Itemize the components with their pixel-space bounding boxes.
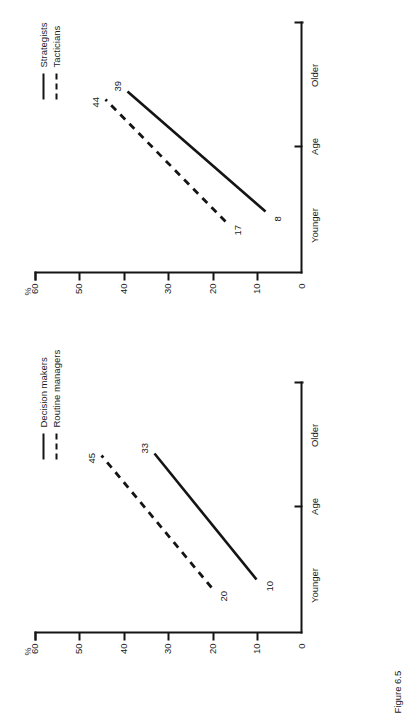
rotated-page-canvas: % 60 50 40 30 20 10 0 Younge [0, 0, 417, 719]
legend-label-tacticians: Tacticians [51, 25, 61, 67]
plot-area-decision-makers: % 60 50 40 30 20 10 0 Younge [28, 373, 358, 685]
line-decision-makers [154, 453, 256, 579]
chart-strategists: % 60 50 40 30 20 10 0 Younger Age [0, 0, 417, 359]
legend-label-strategists: Strategists [38, 22, 48, 67]
dashed-line-icon [51, 433, 61, 459]
point-label-tacticians-younger: 17 [232, 224, 242, 235]
figure-caption: Figure 6.5 [392, 670, 402, 713]
dashed-line-icon [51, 73, 61, 99]
solid-line-icon [38, 433, 48, 459]
legend-decision-makers: Decision makers Routine managers [36, 349, 62, 459]
legend-label-routine-managers: Routine managers [51, 349, 61, 427]
legend-item-routine-managers: Routine managers [49, 349, 62, 459]
legend-strategists: Strategists Tacticians [36, 22, 62, 99]
solid-line-icon [38, 73, 48, 99]
point-label-routine-managers-older: 45 [86, 452, 96, 463]
point-label-strategists-younger: 8 [272, 216, 282, 221]
series-lines-decision-makers [28, 373, 358, 685]
line-routine-managers [101, 455, 211, 587]
legend-label-decision-makers: Decision makers [38, 357, 48, 427]
point-label-decision-makers-older: 33 [139, 442, 149, 453]
series-lines-strategists [28, 13, 358, 325]
point-label-strategists-older: 39 [112, 80, 122, 91]
point-label-tacticians-older: 44 [90, 96, 100, 107]
plot-area-strategists: % 60 50 40 30 20 10 0 Younger Age [28, 13, 358, 325]
chart-decision-makers: % 60 50 40 30 20 10 0 Younge [0, 360, 417, 719]
legend-item-decision-makers: Decision makers [36, 349, 49, 459]
legend-item-strategists: Strategists [36, 22, 49, 99]
point-label-routine-managers-younger: 20 [218, 590, 228, 601]
legend-item-tacticians: Tacticians [49, 22, 62, 99]
point-label-decision-makers-younger: 10 [264, 580, 274, 591]
